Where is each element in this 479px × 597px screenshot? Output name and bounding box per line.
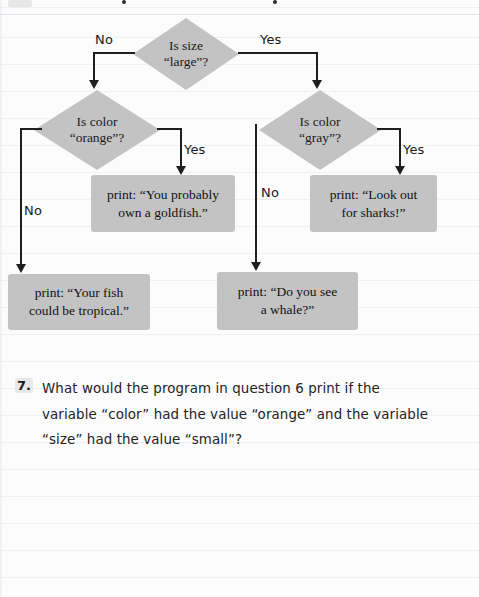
top-divider-line (0, 14, 479, 15)
edge-label-orange-no: No (24, 203, 42, 218)
question-text-line1: What would the program in question 6 pri… (42, 376, 432, 402)
output-label-line1: print: “Your fish (35, 284, 124, 302)
edge-label-gray-yes: Yes (403, 142, 425, 157)
decision-label-line2: “orange”? (70, 130, 125, 146)
output-print-goldfish: print: “You probably own a goldfish.” (91, 175, 235, 232)
question-block: 7. What would the program in question 6 … (12, 376, 432, 453)
arrowhead-gray-no (251, 262, 261, 271)
page-left-edge (0, 0, 3, 597)
edge-label-size-yes: Yes (260, 32, 282, 47)
connector-orange-yes-vertical (180, 128, 182, 168)
output-label-line1: print: “Look out (330, 186, 418, 204)
connector-orange-yes-horizontal (157, 128, 182, 130)
connector-orange-no-horizontal (20, 128, 42, 130)
decision-label-line2: “gray”? (299, 130, 341, 146)
output-print-tropical: print: “Your fish could be tropical.” (8, 274, 150, 330)
output-label-line1: print: “Do you see (238, 283, 337, 301)
output-label-line1: print: “You probably (107, 186, 219, 204)
top-cropped-dot-icon (273, 0, 277, 4)
connector-gray-yes-vertical (399, 128, 401, 168)
decision-label-line1: Is color (300, 114, 341, 130)
notebook-page: Is size “large”? No Yes Is color “orange… (0, 0, 479, 597)
connector-size-no-horizontal (93, 52, 135, 54)
connector-size-yes-horizontal (238, 52, 318, 54)
decision-is-color-orange: Is color “orange”? (34, 90, 160, 170)
decision-is-size-large: Is size “large”? (133, 18, 239, 90)
arrowhead-orange-no (16, 264, 26, 273)
decision-label-line2: “large”? (164, 54, 209, 70)
top-cropped-dot-icon (122, 0, 126, 4)
connector-gray-yes-horizontal (377, 128, 401, 130)
question-text-line2: variable “color” had the value “orange” … (42, 402, 432, 428)
output-label-line2: own a goldfish.” (118, 204, 208, 222)
question-number: 7. (15, 378, 33, 393)
output-print-whale: print: “Do you see a whale?” (217, 272, 358, 330)
output-print-sharks: print: “Look out for sharks!” (310, 175, 437, 232)
decision-is-color-gray: Is color “gray”? (259, 90, 381, 170)
question-text: What would the program in question 6 pri… (42, 376, 432, 453)
connector-gray-no-vertical (255, 124, 257, 264)
edge-label-size-no: No (95, 32, 113, 47)
output-label-line2: for sharks!” (341, 204, 405, 222)
arrowhead-size-no (89, 80, 99, 89)
arrowhead-gray-yes (395, 166, 405, 175)
edge-label-orange-yes: Yes (184, 142, 206, 157)
decision-label-line1: Is color (77, 114, 118, 130)
output-label-line2: a whale?” (261, 301, 315, 319)
question-text-line3: “size” had the value “small”? (42, 427, 432, 453)
connector-size-yes-vertical (316, 52, 318, 82)
connector-size-no-vertical (93, 52, 95, 82)
connector-orange-no-vertical (20, 128, 22, 266)
decision-label-line1: Is size (169, 38, 203, 54)
arrowhead-size-yes (312, 80, 322, 89)
arrowhead-orange-yes (176, 166, 186, 175)
edge-label-gray-no: No (261, 185, 279, 200)
output-label-line2: could be tropical.” (29, 302, 129, 320)
top-cropped-label-block (8, 0, 32, 7)
